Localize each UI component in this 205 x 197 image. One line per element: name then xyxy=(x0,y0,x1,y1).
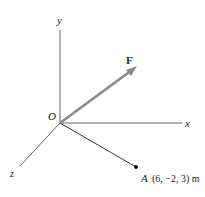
point-a xyxy=(134,165,138,169)
origin-label: O xyxy=(48,110,56,122)
force-label: F xyxy=(126,54,133,66)
z-axis-label: z xyxy=(9,168,14,179)
y-axis-label: y xyxy=(56,14,62,26)
point-a-coords: (6, −2, 3) m xyxy=(152,173,200,185)
x-axis-label: x xyxy=(184,117,190,129)
position-line-oa xyxy=(60,123,136,167)
z-axis xyxy=(20,123,60,166)
vector-diagram: y x z O F A (6, −2, 3) m xyxy=(0,0,205,197)
point-a-label: A xyxy=(140,172,148,184)
force-vector xyxy=(60,70,132,123)
